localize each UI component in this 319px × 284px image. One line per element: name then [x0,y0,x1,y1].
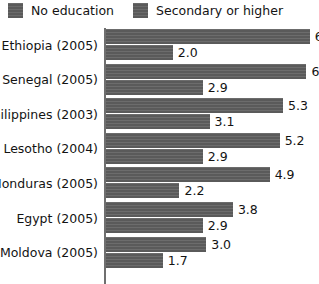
bar-chart: No education Secondary or higher Ethiopi… [0,0,319,284]
bar-rect [106,98,283,113]
category-label: Moldova (2005) [0,236,98,270]
legend-label-secondary-or-higher: Secondary or higher [156,3,283,18]
bar-rect [106,183,179,198]
bar-value-label: 5.2 [285,133,305,148]
bar-rect [106,167,270,182]
bar-secondary-or-higher: 3.1 [106,114,234,129]
category-label: Senegal (2005) [2,63,98,97]
category-label: Lesotho (2004) [3,132,98,166]
bar-row: Lesotho (2004)5.22.9 [0,132,319,166]
bar-value-label: 2.9 [208,218,228,233]
bar-value-label: 2.9 [208,149,228,164]
legend-item-no-education: No education [8,3,114,18]
bar-value-label: 3.1 [215,114,235,129]
legend-swatch-secondary-or-higher-icon [133,3,148,18]
bar-value-label: 3.8 [238,202,258,217]
bar-no-education: 5.3 [106,98,308,113]
bar-no-education: 3.0 [106,237,231,252]
bar-row: Ethiopia (2005)6.2.0 [0,28,319,62]
bar-row: Honduras (2005)4.92.2 [0,166,319,200]
bar-secondary-or-higher: 2.2 [106,183,204,198]
bar-rect [106,133,280,148]
legend-item-secondary-or-higher: Secondary or higher [133,3,283,18]
bar-row: Senegal (2005)6.02.9 [0,63,319,97]
bar-value-label: 4.9 [275,167,295,182]
chart-legend: No education Secondary or higher [0,0,319,26]
bar-rect [106,218,203,233]
bar-value-label: 2.2 [184,183,204,198]
bar-secondary-or-higher: 2.9 [106,80,228,95]
bar-value-label: 2.9 [208,80,228,95]
bar-rect [106,253,163,268]
category-label: Ethiopia (2005) [2,28,98,62]
bar-no-education: 6.0 [106,64,319,79]
bar-rect [106,237,206,252]
bar-secondary-or-higher: 2.9 [106,218,228,233]
bar-value-label: 2.0 [178,45,198,60]
bar-no-education: 3.8 [106,202,258,217]
bar-rect [106,29,310,44]
bar-rect [106,64,306,79]
bar-rect [106,80,203,95]
plot-area: Ethiopia (2005)6.2.0Senegal (2005)6.02.9… [0,28,319,284]
bar-row: Egypt (2005)3.82.9 [0,201,319,235]
category-label: Philippines (2003) [0,97,98,131]
bar-row: Moldova (2005)3.01.7 [0,236,319,270]
bar-value-label: 3.0 [211,237,231,252]
bar-value-label: 5.3 [288,98,308,113]
legend-swatch-no-education-icon [8,3,23,18]
category-label: Honduras (2005) [0,166,98,200]
bar-no-education: 4.9 [106,167,295,182]
category-label: Egypt (2005) [16,201,98,235]
bar-no-education: 5.2 [106,133,305,148]
bar-value-label: 1.7 [168,253,188,268]
bar-rect [106,202,233,217]
bar-rect [106,45,173,60]
bar-value-label: 6. [315,29,319,44]
bar-rect [106,149,203,164]
legend-label-no-education: No education [31,3,114,18]
bar-value-label: 6.0 [311,64,319,79]
bar-secondary-or-higher: 2.0 [106,45,198,60]
bar-no-education: 6. [106,29,319,44]
bar-secondary-or-higher: 1.7 [106,253,188,268]
bar-rect [106,114,210,129]
bar-secondary-or-higher: 2.9 [106,149,228,164]
bar-row: Philippines (2003)5.33.1 [0,97,319,131]
